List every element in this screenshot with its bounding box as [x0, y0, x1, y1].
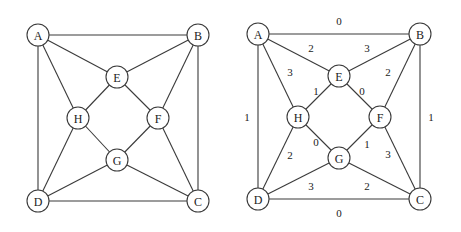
- edge-b-f: [158, 35, 198, 118]
- node-g: G: [106, 149, 128, 171]
- weight-labels-layer: 0231321100213320: [244, 15, 434, 219]
- node-label: H: [294, 111, 303, 125]
- node-label: E: [113, 71, 120, 85]
- graph-diagram-canvas: ABEHFGDC 0231321100213320 ABEHFGDC: [0, 0, 461, 232]
- node-label: E: [335, 70, 342, 84]
- edge-weight-label: 0: [359, 85, 365, 97]
- edge-a-e: [258, 34, 339, 76]
- node-c: C: [409, 188, 431, 210]
- node-a: A: [247, 23, 269, 45]
- edge-weight-label: 2: [385, 66, 391, 78]
- edge-f-c: [158, 118, 198, 201]
- edge-weight-label: 3: [385, 148, 391, 160]
- edge-weight-label: 1: [313, 85, 319, 97]
- edge-weight-label: 0: [336, 15, 342, 27]
- edge-g-c: [339, 158, 420, 199]
- node-label: D: [34, 195, 43, 209]
- node-label: H: [74, 112, 83, 126]
- node-h: H: [67, 107, 89, 129]
- edge-weight-label: 1: [364, 138, 370, 150]
- node-label: F: [155, 112, 162, 126]
- node-label: C: [194, 195, 202, 209]
- edge-g-d: [38, 160, 117, 201]
- edge-weight-label: 2: [308, 42, 314, 54]
- edges-layer: [258, 34, 420, 199]
- node-d: D: [27, 190, 49, 212]
- nodes-layer: ABEHFGDC: [247, 23, 431, 210]
- edge-weight-label: 0: [336, 207, 342, 219]
- node-label: C: [416, 193, 424, 207]
- edge-b-e: [117, 35, 198, 77]
- node-b: B: [409, 23, 431, 45]
- edge-weight-label: 3: [287, 66, 293, 78]
- node-f: F: [369, 106, 391, 128]
- edge-g-c: [117, 160, 198, 201]
- node-label: D: [254, 193, 263, 207]
- edge-weight-label: 3: [308, 180, 314, 192]
- node-g: G: [328, 147, 350, 169]
- edge-a-e: [38, 35, 117, 77]
- weighted-graph: 0231321100213320 ABEHFGDC: [244, 15, 434, 219]
- edge-a-h: [38, 35, 78, 118]
- edge-g-d: [258, 158, 339, 199]
- node-label: B: [194, 29, 202, 43]
- node-b: B: [187, 24, 209, 46]
- edge-weight-label: 0: [313, 136, 319, 148]
- node-label: A: [34, 29, 43, 43]
- edge-weight-label: 3: [364, 42, 370, 54]
- node-a: A: [27, 24, 49, 46]
- edge-weight-label: 2: [364, 180, 370, 192]
- edge-weight-label: 2: [287, 149, 293, 161]
- node-d: D: [247, 188, 269, 210]
- edge-weight-label: 1: [244, 111, 250, 123]
- edge-b-e: [339, 34, 420, 76]
- node-label: A: [254, 28, 263, 42]
- unweighted-graph: ABEHFGDC: [27, 24, 209, 212]
- node-label: B: [416, 28, 424, 42]
- node-label: G: [113, 154, 122, 168]
- edge-h-d: [38, 118, 78, 201]
- node-e: E: [106, 66, 128, 88]
- node-h: H: [287, 106, 309, 128]
- node-label: F: [377, 111, 384, 125]
- edge-weight-label: 1: [428, 111, 434, 123]
- node-label: G: [335, 152, 344, 166]
- node-e: E: [328, 65, 350, 87]
- node-f: F: [147, 107, 169, 129]
- edges-layer: [38, 35, 198, 201]
- node-c: C: [187, 190, 209, 212]
- nodes-layer: ABEHFGDC: [27, 24, 209, 212]
